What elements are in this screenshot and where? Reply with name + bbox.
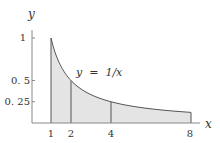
xtick-label-1: 1 <box>48 128 54 139</box>
y-axis-label: y <box>27 7 35 21</box>
x-axis-label: x <box>205 117 212 131</box>
xtick-label-2: 2 <box>68 128 74 139</box>
xtick-label-4: 4 <box>108 128 114 139</box>
xtick-label-8: 8 <box>187 128 193 139</box>
shaded-region <box>51 38 191 123</box>
curve-annotation: y = 1/x <box>75 66 123 79</box>
plot: y x 1 0. 5 0. 25 1 2 4 8 y = 1/x <box>0 0 220 143</box>
ytick-label-025: 0. 25 <box>5 96 30 107</box>
ytick-label-05: 0. 5 <box>11 75 30 86</box>
ytick-label-1: 1 <box>20 32 26 43</box>
